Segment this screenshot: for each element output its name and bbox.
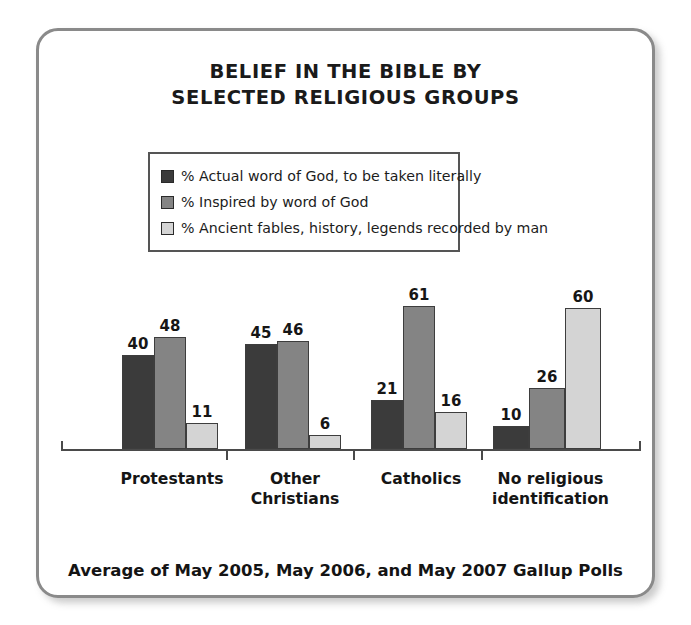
bar: 61: [403, 306, 435, 449]
chart-root: BELIEF IN THE BIBLE BY SELECTED RELIGIOU…: [0, 0, 691, 625]
bar-value-label: 61: [409, 286, 430, 304]
legend-item-ancient-fables: % Ancient fables, history, legends recor…: [161, 215, 447, 241]
bar-value-label: 40: [128, 335, 149, 353]
legend-swatch-series-3: [161, 222, 174, 235]
axis-tick: [481, 451, 483, 460]
legend-item-inspired-by-word-of-god: % Inspired by word of God: [161, 189, 447, 215]
legend-label-series-3: % Ancient fables, history, legends recor…: [181, 220, 548, 236]
bar-group: 102660: [493, 259, 608, 449]
legend-item-actual-word-of-god: % Actual word of God, to be taken litera…: [161, 163, 447, 189]
bar-value-label: 60: [573, 288, 594, 306]
chart-footnote: Average of May 2005, May 2006, and May 2…: [39, 561, 652, 580]
category-label-line: Christians: [215, 489, 375, 509]
bar: 40: [122, 355, 154, 449]
x-axis-line: [61, 449, 641, 451]
bar: 6: [309, 435, 341, 449]
bar-group: 45466: [245, 259, 345, 449]
axis-end-tick: [639, 441, 641, 451]
category-label-line: No religious: [463, 469, 638, 489]
axis-tick: [353, 451, 355, 460]
plot-area: 40481145466216116102660: [61, 261, 641, 451]
category-label-line: identification: [463, 489, 638, 509]
axis-end-tick: [61, 441, 63, 451]
bar-group: 404811: [122, 259, 222, 449]
bar: 48: [154, 337, 186, 449]
bar-group-bars: 45466: [245, 259, 341, 449]
bar-group-bars: 102660: [493, 259, 601, 449]
bar: 60: [565, 308, 601, 449]
bar-value-label: 6: [320, 415, 330, 433]
category-axis-labels: ProtestantsOtherChristiansCatholicsNo re…: [61, 469, 641, 529]
bar-value-label: 45: [251, 324, 272, 342]
bar: 46: [277, 341, 309, 449]
bar-value-label: 21: [377, 380, 398, 398]
bar: 16: [435, 412, 467, 449]
bar: 45: [245, 344, 277, 449]
bar: 26: [529, 388, 565, 449]
bar: 10: [493, 426, 529, 449]
bar-value-label: 11: [192, 403, 213, 421]
bar: 21: [371, 400, 403, 449]
legend-swatch-series-2: [161, 196, 174, 209]
bar-value-label: 48: [160, 317, 181, 335]
chart-legend: % Actual word of God, to be taken litera…: [148, 152, 460, 252]
bar-group-bars: 216116: [371, 259, 467, 449]
bar-group-bars: 404811: [122, 259, 218, 449]
legend-swatch-series-1: [161, 170, 174, 183]
chart-frame: BELIEF IN THE BIBLE BY SELECTED RELIGIOU…: [36, 28, 655, 598]
chart-title-line-2: SELECTED RELIGIOUS GROUPS: [39, 85, 652, 111]
bar-value-label: 46: [283, 321, 304, 339]
bar-group: 216116: [371, 259, 471, 449]
legend-label-series-2: % Inspired by word of God: [181, 194, 368, 210]
bar: 11: [186, 423, 218, 449]
bar-value-label: 26: [537, 368, 558, 386]
axis-tick: [226, 451, 228, 460]
category-label: No religiousidentification: [463, 469, 638, 509]
legend-label-series-1: % Actual word of God, to be taken litera…: [181, 168, 481, 184]
chart-title: BELIEF IN THE BIBLE BY SELECTED RELIGIOU…: [39, 59, 652, 111]
bar-value-label: 16: [441, 392, 462, 410]
bar-value-label: 10: [501, 406, 522, 424]
chart-title-line-1: BELIEF IN THE BIBLE BY: [39, 59, 652, 85]
